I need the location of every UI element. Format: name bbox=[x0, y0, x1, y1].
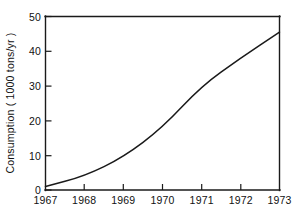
x-tick-label-1971: 1971 bbox=[190, 194, 214, 206]
y-tick-label-50: 50 bbox=[29, 11, 41, 23]
y-tick-label-30: 30 bbox=[29, 80, 41, 92]
x-tick-marks bbox=[84, 184, 241, 190]
x-tick-labels: 1967 1968 1969 1970 1971 1972 1973 bbox=[33, 194, 291, 206]
y-tick-marks bbox=[46, 17, 52, 191]
y-tick-label-20: 20 bbox=[29, 115, 41, 127]
x-tick-label-1968: 1968 bbox=[72, 194, 96, 206]
line-chart-canvas: 50 40 30 20 10 0 1967 1968 1969 1970 197… bbox=[0, 0, 306, 216]
chart-figure: 50 40 30 20 10 0 1967 1968 1969 1970 197… bbox=[0, 0, 306, 216]
y-tick-label-10: 10 bbox=[29, 150, 41, 162]
axis-frame bbox=[45, 16, 280, 191]
y-axis-title: Consumption ( 1000 tons/yr ) bbox=[4, 33, 16, 174]
consumption-series-line bbox=[46, 32, 280, 186]
x-tick-label-1973: 1973 bbox=[267, 194, 291, 206]
x-tick-label-1972: 1972 bbox=[229, 194, 253, 206]
x-tick-label-1967: 1967 bbox=[33, 194, 57, 206]
x-tick-label-1969: 1969 bbox=[111, 194, 135, 206]
x-tick-label-1970: 1970 bbox=[150, 194, 174, 206]
y-tick-label-40: 40 bbox=[29, 45, 41, 57]
y-tick-labels: 50 40 30 20 10 0 bbox=[29, 11, 41, 197]
